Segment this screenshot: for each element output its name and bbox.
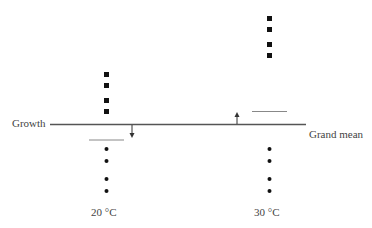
square-marker — [104, 109, 109, 114]
group-20c — [89, 72, 135, 193]
dot-marker — [268, 147, 272, 151]
dot-marker — [268, 159, 272, 163]
dot-marker — [105, 177, 109, 181]
group-30c — [235, 16, 288, 193]
group-label-20c: 20 °C — [91, 206, 117, 218]
dot-marker — [105, 159, 109, 163]
arrow-down-icon — [130, 125, 135, 138]
square-marker — [104, 98, 109, 103]
square-marker — [104, 83, 109, 88]
growth-label: Growth — [12, 117, 46, 129]
grand-mean-label: Grand mean — [309, 128, 363, 140]
square-marker — [267, 16, 272, 21]
arrow-up-icon — [235, 112, 240, 124]
dot-marker — [105, 147, 109, 151]
dot-marker — [268, 177, 272, 181]
square-marker — [267, 53, 272, 58]
group-label-30c: 30 °C — [254, 206, 280, 218]
dot-marker — [105, 189, 109, 193]
square-marker — [267, 42, 272, 47]
square-marker — [104, 72, 109, 77]
dot-marker — [268, 189, 272, 193]
diagram-canvas — [0, 0, 372, 228]
square-marker — [267, 27, 272, 32]
